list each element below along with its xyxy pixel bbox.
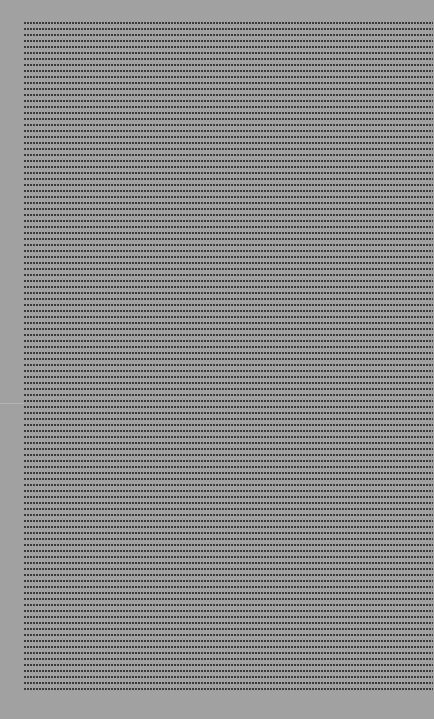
- dot-matrix-pattern: [24, 22, 433, 691]
- divider-line: [0, 403, 24, 404]
- page-canvas: [0, 0, 434, 719]
